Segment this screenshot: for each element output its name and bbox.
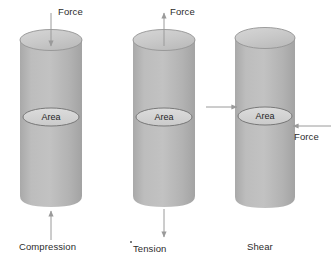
panel-tension <box>133 13 195 237</box>
caption-compression: Compression <box>19 241 76 252</box>
area-label-compression: Area <box>23 112 79 122</box>
area-label-tension: Area <box>136 112 192 122</box>
force-label-top-compression: Force <box>58 6 83 17</box>
panel-compression <box>20 13 82 240</box>
force-label-right-shear: Force <box>294 131 319 142</box>
force-label-top-tension: Force <box>170 6 195 17</box>
caption-tension: Tension <box>133 243 166 254</box>
tension-caption-dot-artifact <box>130 241 132 243</box>
caption-shear: Shear <box>247 241 273 252</box>
stress-diagram-svg <box>0 0 334 266</box>
area-label-shear: Area <box>238 111 292 121</box>
diagram-canvas: Force Area Compression Force Area Tensio… <box>0 0 334 266</box>
cylinder-top-shear <box>235 28 295 49</box>
